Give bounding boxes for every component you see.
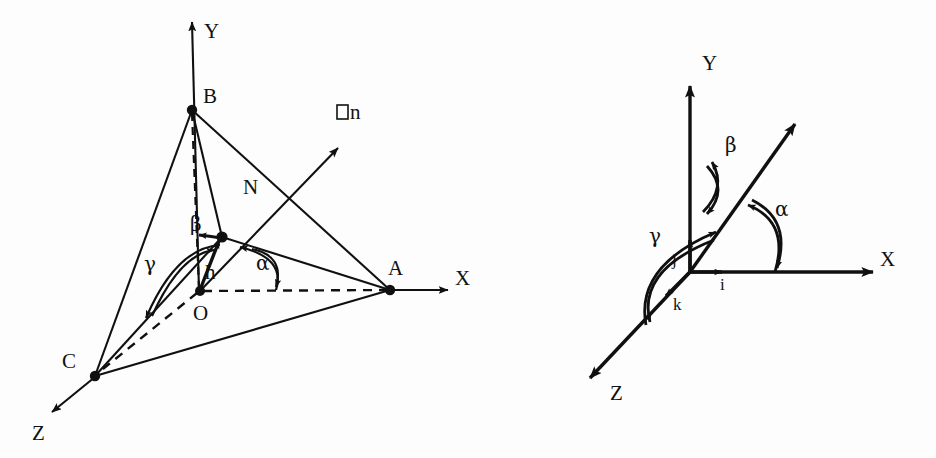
right-angle-label-alpha: α: [775, 197, 789, 221]
diagram-svg: Y X Z B A C O N n h α β γ: [0, 0, 936, 458]
right-axis-label-y: Y: [702, 51, 717, 75]
left-panel-group: Y X Z B A C O N n h α β γ: [32, 19, 470, 445]
edge-b-a: [192, 110, 390, 290]
left-x-axis-dashed-segment: [203, 290, 386, 291]
right-angle-label-gamma: γ: [649, 224, 661, 248]
left-origin-label-o: O: [193, 301, 208, 325]
right-unit-label-j: j: [671, 250, 677, 269]
left-height-label-h: h: [205, 260, 216, 284]
missing-glyph-box-icon: [337, 105, 348, 119]
right-unit-vector-k: [666, 272, 690, 296]
left-vertex-label-c: C: [62, 349, 76, 373]
left-axis-label-z: Z: [32, 421, 45, 445]
origin-o-node: [195, 286, 205, 296]
figure-canvas: Y X Z B A C O N n h α β γ: [0, 0, 936, 458]
left-vertex-label-b: B: [203, 84, 217, 108]
left-angle-label-alpha: α: [256, 251, 270, 275]
foot-of-perpendicular-node: [216, 231, 227, 242]
right-panel-group: Y X Z i j k β α γ: [590, 51, 895, 405]
right-angle-label-beta: β: [725, 133, 737, 157]
left-z-axis: [52, 377, 95, 412]
right-axis-label-x: X: [880, 247, 895, 271]
left-axis-label-x: X: [455, 266, 470, 290]
right-unit-label-k: k: [673, 295, 682, 314]
right-unit-label-i: i: [720, 275, 725, 294]
vertex-b-node: [187, 105, 197, 115]
edge-h-a: [222, 237, 390, 290]
edge-c-a: [95, 290, 390, 376]
vertex-a-node: [385, 285, 395, 295]
left-normal-label-n: N: [243, 175, 258, 199]
left-vertex-label-a: A: [388, 256, 404, 280]
left-angle-label-gamma: γ: [144, 252, 156, 276]
left-angle-label-beta: β: [190, 212, 202, 236]
right-axis-label-z: Z: [610, 381, 623, 405]
left-normal-vector-label: n: [350, 100, 361, 124]
left-axis-label-y: Y: [204, 19, 219, 43]
vertex-c-node: [90, 371, 100, 381]
